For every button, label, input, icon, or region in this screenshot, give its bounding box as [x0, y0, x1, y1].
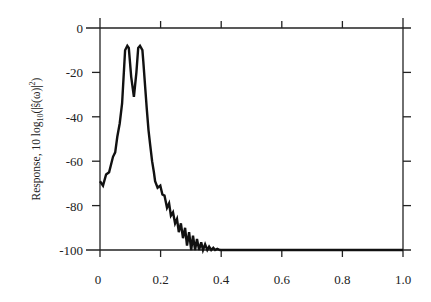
y-tick-labels: 0-20-40-60-80-100 — [59, 21, 83, 258]
y-tick-label: -80 — [66, 199, 83, 214]
x-tick-labels: 00.20.40.60.81.0 — [95, 272, 411, 287]
x-tick-label: 0.6 — [274, 272, 291, 287]
x-tick-label: 1.0 — [395, 272, 411, 287]
x-tick-label: 0 — [95, 272, 102, 287]
axis-ticks — [92, 21, 411, 257]
y-tick-label: -20 — [66, 65, 83, 80]
response-chart: 00.20.40.60.81.0 0-20-40-60-80-100 Respo… — [0, 0, 431, 302]
y-tick-label: -100 — [59, 243, 83, 258]
y-tick-label: -60 — [66, 154, 83, 169]
y-axis-label: Response, 10 log10(|ŝ(ω)|2) — [28, 77, 45, 200]
plot-frame — [86, 18, 411, 257]
x-tick-label: 0.8 — [334, 272, 350, 287]
response-curve — [100, 46, 403, 250]
x-tick-label: 0.2 — [152, 272, 168, 287]
y-tick-label: 0 — [77, 21, 84, 36]
x-tick-label: 0.4 — [213, 272, 230, 287]
y-tick-label: -40 — [66, 110, 83, 125]
